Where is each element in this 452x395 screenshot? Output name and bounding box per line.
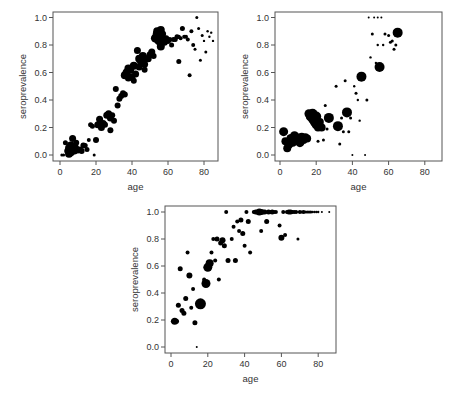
- data-point: [279, 127, 288, 136]
- x-tick-label: 20: [203, 359, 213, 369]
- data-point: [210, 31, 212, 33]
- data-point: [347, 130, 350, 133]
- data-point: [371, 33, 374, 36]
- data-point: [324, 104, 327, 107]
- x-axis-label: age: [128, 181, 144, 192]
- data-point: [188, 73, 192, 77]
- data-point: [377, 17, 379, 19]
- data-point: [321, 211, 323, 213]
- plot-frame: [53, 12, 218, 161]
- data-point: [264, 219, 269, 224]
- x-axis-label: age: [243, 373, 259, 384]
- data-point: [237, 229, 241, 233]
- data-point: [393, 48, 396, 51]
- data-point: [351, 154, 353, 156]
- data-point: [134, 47, 141, 54]
- data-point: [243, 244, 247, 248]
- data-point: [394, 44, 397, 47]
- data-point: [380, 17, 382, 19]
- data-point: [355, 92, 358, 95]
- data-point: [342, 107, 352, 117]
- data-point: [189, 306, 193, 310]
- data-point: [87, 138, 91, 142]
- y-tick-label: 0.0: [34, 150, 47, 160]
- data-point: [209, 251, 213, 255]
- data-point: [115, 103, 121, 109]
- data-point: [326, 127, 329, 130]
- data-point: [248, 251, 252, 255]
- x-tick-label: 40: [240, 359, 250, 369]
- data-points: [279, 17, 403, 157]
- data-point: [90, 124, 95, 129]
- data-point: [259, 229, 263, 233]
- data-point: [180, 26, 185, 31]
- x-tick-label: 80: [199, 167, 209, 177]
- data-point: [340, 116, 343, 119]
- data-point: [317, 140, 320, 143]
- data-point: [122, 92, 128, 98]
- data-point: [294, 210, 298, 214]
- data-point: [194, 48, 197, 51]
- data-point: [178, 266, 183, 271]
- data-point: [132, 70, 139, 77]
- data-point: [342, 130, 345, 133]
- data-point: [195, 16, 198, 19]
- data-point: [278, 224, 282, 228]
- y-axis-label: seroprevalence: [129, 247, 140, 312]
- data-point: [217, 278, 221, 282]
- data-point: [333, 121, 343, 131]
- data-point: [383, 33, 386, 36]
- x-tick-label: 0: [277, 167, 282, 177]
- data-point: [318, 124, 326, 132]
- y-tick-label: 0.4: [34, 95, 47, 105]
- x-tick-label: 0: [57, 167, 62, 177]
- data-point: [93, 137, 99, 143]
- data-point: [201, 279, 210, 288]
- y-tick-label: 0.8: [34, 40, 47, 50]
- data-point: [226, 258, 231, 263]
- data-point: [233, 258, 238, 263]
- y-tick-label: 0.4: [256, 95, 269, 105]
- data-point: [324, 113, 334, 123]
- data-point: [358, 119, 360, 121]
- data-point: [230, 237, 234, 241]
- x-tick-label: 60: [163, 167, 173, 177]
- data-point: [281, 210, 285, 214]
- data-point: [232, 225, 236, 229]
- x-axis-label: age: [351, 181, 367, 192]
- data-point: [317, 211, 319, 213]
- data-point: [238, 218, 243, 223]
- data-point: [111, 118, 117, 124]
- data-point: [131, 78, 137, 84]
- data-point: [344, 79, 347, 82]
- data-point: [189, 29, 193, 33]
- data-point: [206, 30, 208, 32]
- y-tick-label: 0.8: [146, 234, 159, 244]
- data-point: [353, 85, 355, 87]
- data-point: [151, 53, 157, 59]
- data-point: [375, 62, 385, 72]
- data-point: [85, 147, 90, 152]
- plot-frame: [165, 206, 336, 353]
- y-tick-label: 1.0: [256, 13, 269, 23]
- data-point: [283, 233, 287, 237]
- scatter-chart-3: 0.00.20.40.60.81.0020406080ageseropreval…: [129, 206, 336, 384]
- data-point: [191, 287, 195, 291]
- data-point: [387, 34, 390, 37]
- y-axis-label: seroprevalence: [239, 54, 250, 119]
- data-point: [222, 243, 227, 248]
- data-point: [240, 231, 245, 236]
- y-tick-label: 0.0: [146, 342, 159, 352]
- data-point: [364, 154, 366, 156]
- data-point: [62, 154, 65, 157]
- data-point: [296, 238, 299, 241]
- data-point: [356, 72, 366, 82]
- y-tick-label: 0.2: [146, 315, 159, 325]
- data-point: [186, 38, 190, 42]
- data-point: [186, 272, 192, 278]
- data-point: [382, 44, 384, 46]
- y-axis-label: seroprevalence: [17, 54, 28, 119]
- data-point: [208, 36, 210, 38]
- y-tick-label: 0.6: [34, 68, 47, 78]
- data-point: [357, 99, 359, 101]
